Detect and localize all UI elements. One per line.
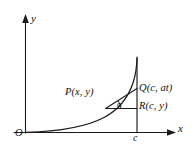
point-label-p: P(x, y) <box>65 87 94 98</box>
origin-label: O <box>15 128 23 139</box>
x-axis-arrowhead <box>167 129 176 136</box>
point-label-r: R(c, y) <box>139 101 168 112</box>
x-axis-label: x <box>178 123 183 134</box>
y-axis-label: y <box>31 13 36 24</box>
figure-canvas <box>0 0 192 159</box>
y-axis-arrowhead <box>22 14 29 23</box>
angle-label-alpha: α <box>117 100 122 109</box>
point-label-q: Q(c, at) <box>139 83 172 94</box>
math-figure: y x O c P(x, y) Q(c, at) R(c, y) α <box>0 0 192 159</box>
x-tick-label-c: c <box>133 133 138 143</box>
